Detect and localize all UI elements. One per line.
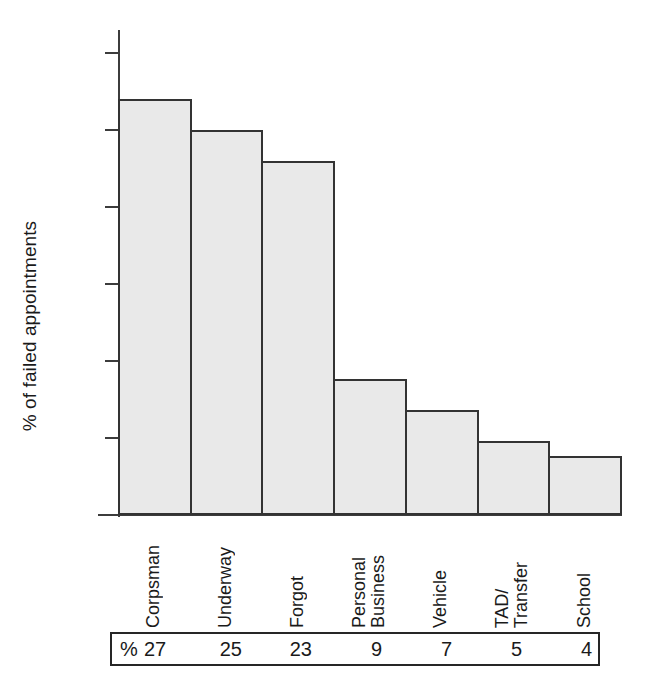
- y-axis-tick-mark: [105, 129, 118, 131]
- x-axis-category-label-text: TAD/ Transfer: [493, 562, 531, 628]
- value-table-cell: 4: [532, 634, 602, 664]
- x-axis-category-label-text: School: [575, 573, 594, 628]
- bar-chart-figure: % of failed appointments 051015202530 Co…: [0, 0, 661, 697]
- x-axis-category-label-text: Vehicle: [431, 570, 450, 628]
- y-axis-tick-group: 051015202530: [0, 0, 118, 697]
- x-axis-category-label: Underway: [190, 520, 262, 628]
- x-axis-category-label: Personal Business: [333, 520, 405, 628]
- value-table-cell: 27: [112, 634, 182, 664]
- bar-series: [118, 30, 620, 515]
- bar: [190, 130, 264, 515]
- x-axis-category-label: TAD/ Transfer: [477, 520, 549, 628]
- x-axis-category-label: Forgot: [261, 520, 333, 628]
- value-table-cell: 23: [252, 634, 322, 664]
- bar: [333, 379, 407, 515]
- x-axis-category-label-text: Corpsman: [144, 545, 163, 628]
- bar: [405, 410, 479, 515]
- x-axis-category-labels: CorpsmanUnderwayForgotPersonal BusinessV…: [118, 520, 620, 628]
- x-axis-category-label-text: Personal Business: [350, 555, 388, 628]
- y-axis-tick-mark: [105, 437, 118, 439]
- value-table-cell: 5: [462, 634, 532, 664]
- y-axis-tick-mark: [105, 360, 118, 362]
- value-table-cell: 7: [392, 634, 462, 664]
- bar: [548, 456, 622, 515]
- x-axis-category-label: School: [548, 520, 620, 628]
- value-table: % 2725239754: [110, 632, 600, 666]
- value-table-cell: 9: [322, 634, 392, 664]
- y-axis-tick-mark: [105, 52, 118, 54]
- x-axis-category-label: Vehicle: [405, 520, 477, 628]
- y-axis-tick-mark: [105, 283, 118, 285]
- bar: [118, 99, 192, 515]
- x-axis-category-label: Corpsman: [118, 520, 190, 628]
- value-table-cell: 25: [182, 634, 252, 664]
- x-axis-category-label-text: Forgot: [288, 576, 307, 628]
- bar: [477, 441, 551, 515]
- bar: [261, 161, 335, 515]
- y-axis-tick-mark: [105, 206, 118, 208]
- x-axis-category-label-text: Underway: [216, 547, 235, 628]
